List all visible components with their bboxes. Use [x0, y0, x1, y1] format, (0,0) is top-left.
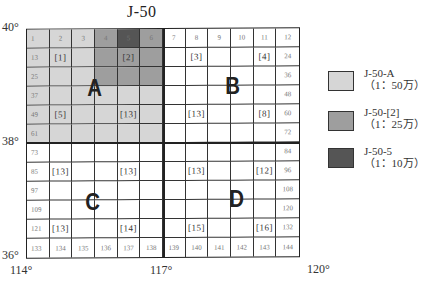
grid-cell	[140, 105, 163, 124]
sheet-number: 144	[282, 243, 293, 251]
subsheet-code: [2]	[122, 52, 134, 62]
sheet-number: 9	[217, 34, 221, 42]
sheet-number: 49	[31, 111, 38, 119]
longitude-label-114: 114°	[10, 263, 32, 278]
sheet-number: 8	[195, 34, 199, 42]
sheet-number: 84	[284, 147, 291, 155]
longitude-label-120: 120°	[307, 262, 330, 277]
grid-cell: [5]	[50, 105, 73, 124]
grid-cell: 96	[276, 161, 299, 180]
grid-cell	[118, 181, 141, 200]
sheet-number: 5	[127, 34, 131, 42]
grid-cell: [1]	[50, 48, 73, 67]
grid-cell	[163, 105, 186, 124]
grid-cell	[254, 142, 277, 161]
grid-cell: [16]	[254, 218, 277, 237]
sheet-number: 120	[282, 204, 293, 212]
legend-swatch-1-10wan	[328, 148, 354, 168]
grid-cell	[208, 48, 231, 67]
sheet-number: 4	[104, 34, 108, 42]
grid-cell	[118, 200, 141, 219]
longitude-label-117: 117°	[150, 263, 172, 278]
grid-cell	[95, 219, 118, 238]
grid-cell: 3	[72, 29, 95, 48]
grid-cell: [3]	[186, 48, 209, 67]
grid-cell: 37	[27, 87, 50, 106]
grid-cell	[254, 199, 277, 218]
grid-cell	[186, 200, 209, 219]
grid-cell: [8]	[254, 104, 277, 123]
grid-cell	[254, 85, 277, 104]
subsheet-code: [13]	[120, 109, 137, 119]
grid-cell: [13]	[50, 219, 73, 238]
grid-cell	[50, 181, 73, 200]
grid-cell: 61	[27, 125, 50, 144]
grid-cell: 48	[276, 85, 299, 104]
grid-cell: 97	[27, 182, 50, 201]
grid-cell: 136	[95, 238, 118, 257]
grid-cell	[140, 162, 163, 181]
subsheet-code: [5]	[54, 110, 66, 120]
grid-cell	[140, 86, 163, 105]
grid-cell: 138	[140, 238, 163, 257]
grid-cell	[163, 181, 186, 200]
grid-cell: 13	[27, 49, 50, 68]
grid-cell: 4	[95, 29, 118, 48]
sheet-number: 109	[31, 206, 42, 214]
grid-cell	[208, 219, 231, 238]
grid-cell	[163, 162, 186, 181]
sheet-number: 139	[169, 243, 180, 251]
grid-cell: 109	[27, 201, 50, 220]
grid-cell	[50, 200, 73, 219]
grid-cell	[186, 67, 209, 86]
sheet-number: 132	[282, 223, 293, 231]
latitude-label-36: 36°	[2, 248, 19, 263]
grid-cell	[140, 48, 163, 67]
sheet-number: 85	[31, 168, 38, 176]
grid-cell	[72, 105, 95, 124]
subsheet-code: [13]	[120, 166, 137, 176]
grid-cell	[254, 180, 277, 199]
latitude-label-40: 40°	[2, 20, 19, 35]
grid-cell	[208, 143, 231, 162]
grid-cell	[95, 124, 118, 143]
subsheet-code: [13]	[188, 109, 205, 119]
grid-cell	[163, 86, 186, 105]
grid-cell	[254, 123, 277, 142]
grid-cell: [4]	[254, 47, 277, 66]
legend-swatch-1-25wan	[328, 111, 354, 131]
grid-cell	[95, 143, 118, 162]
sheet-number: 72	[284, 128, 291, 136]
grid-cell: 24	[276, 47, 299, 66]
grid-cell: 6	[140, 29, 163, 48]
quadrant-label-b: B	[225, 72, 240, 100]
sheet-number: 7	[172, 34, 176, 42]
grid-cell: 73	[27, 144, 50, 163]
grid-cell	[163, 200, 186, 219]
subsheet-code: [4]	[258, 51, 270, 61]
grid-cell	[140, 200, 163, 219]
grid-cell	[50, 143, 73, 162]
grid-cell	[140, 124, 163, 143]
grid-cell: 120	[276, 199, 299, 218]
sheet-number: 6	[149, 34, 153, 42]
grid-cell: [13]	[186, 162, 209, 181]
grid-cell	[186, 86, 209, 105]
grid-cell: 134	[50, 238, 73, 257]
sheet-number: 97	[31, 187, 38, 195]
latitude-label-38: 38°	[2, 134, 19, 149]
grid-cell	[50, 86, 73, 105]
legend-swatch-1-50wan	[328, 71, 354, 91]
grid-cell	[231, 143, 254, 162]
grid-cell: [13]	[118, 162, 141, 181]
grid-cell	[186, 124, 209, 143]
sheet-number: 2	[59, 35, 63, 43]
legend-label-1-10wan: J-50-5（1：10万）	[364, 145, 422, 169]
sheet-number: 136	[101, 244, 112, 252]
legend-label-1-25wan: J-50-[2]（1：25万）	[364, 106, 422, 130]
sheet-number: 121	[31, 225, 42, 233]
grid-cell	[163, 219, 186, 238]
grid-cell: 49	[27, 106, 50, 125]
grid-cell: 85	[27, 163, 50, 182]
grid-cell: 2	[50, 29, 73, 48]
